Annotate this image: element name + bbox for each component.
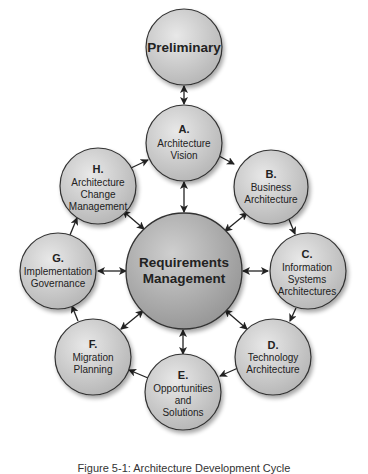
phase-h-line1: Architecture — [71, 177, 125, 188]
phase-h-line3: Management — [69, 201, 128, 212]
phase-g-letter: G. — [52, 252, 64, 264]
phase-f-line1: Migration — [72, 352, 113, 363]
phase-b-letter: B. — [266, 168, 277, 180]
node-phase-h: H. Architecture Change Management — [60, 148, 136, 224]
node-phase-c: C. Information Systems Architectures — [270, 233, 346, 309]
phase-c-line2: Systems — [288, 274, 326, 285]
phase-f-line2: Planning — [74, 364, 113, 375]
node-phase-f: F. Migration Planning — [55, 319, 131, 395]
arrow-e-to-f — [129, 370, 148, 378]
node-phase-d: D. Technology Architecture — [235, 319, 311, 395]
node-phase-e: E. Opportunities and Solutions — [145, 354, 221, 430]
arrow-center-d — [225, 310, 247, 329]
arrow-center-b — [225, 213, 247, 231]
node-preliminary: Preliminary — [146, 9, 222, 85]
phase-c-line1: Information — [282, 262, 332, 273]
phase-c-line3: Architectures — [278, 286, 336, 297]
phase-b-line1: Business — [251, 182, 292, 193]
arrow-f-to-g — [72, 306, 78, 321]
phase-d-line1: Technology — [248, 352, 299, 363]
phase-a-line2: Vision — [170, 150, 197, 161]
phase-h-line2: Change — [80, 189, 115, 200]
arrow-center-h — [123, 211, 144, 229]
node-phase-a: A. Architecture Vision — [146, 105, 222, 181]
arrow-d-to-e — [220, 368, 238, 376]
phase-c-letter: C. — [302, 248, 313, 260]
arrow-c-to-d — [290, 308, 296, 321]
phase-e-letter: E. — [178, 369, 188, 381]
node-requirements-management: Requirements Management — [126, 213, 242, 329]
phase-f-letter: F. — [89, 338, 98, 350]
phase-h-letter: H. — [93, 163, 104, 175]
phase-b-line2: Architecture — [244, 194, 298, 205]
node-phase-g: G. Implementation Governance — [20, 233, 96, 309]
node-phase-b: B. Business Architecture — [234, 150, 308, 224]
phase-g-line2: Governance — [31, 278, 86, 289]
arrow-center-f — [121, 311, 143, 329]
phase-a-letter: A. — [179, 123, 190, 135]
phase-e-line3: Solutions — [162, 407, 203, 418]
arrow-a-to-b — [219, 156, 234, 164]
center-label-line2: Management — [143, 271, 226, 286]
center-label-line1: Requirements — [139, 255, 229, 270]
phase-e-line2: and — [175, 395, 192, 406]
figure-caption: Figure 5-1: Architecture Development Cyc… — [0, 462, 368, 474]
arrow-g-to-h — [70, 218, 77, 235]
preliminary-label: Preliminary — [147, 40, 221, 55]
phase-d-line2: Architecture — [246, 364, 300, 375]
phase-d-letter: D. — [268, 339, 279, 351]
phase-a-line1: Architecture — [157, 138, 211, 149]
phase-e-line1: Opportunities — [153, 383, 212, 394]
phase-g-line1: Implementation — [24, 266, 92, 277]
arrow-h-to-a — [131, 160, 148, 168]
